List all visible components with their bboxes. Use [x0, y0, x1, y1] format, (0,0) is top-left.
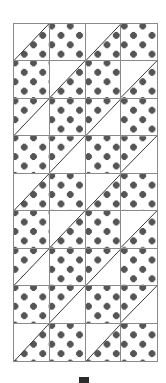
quilt-cell-full	[121, 324, 157, 361]
quilt-cell-half-lr	[121, 211, 157, 248]
quilt-cell-full	[86, 211, 122, 248]
polka-dot-fabric	[86, 286, 121, 322]
polka-dot-fabric	[121, 211, 157, 247]
quilt-cell-full	[14, 286, 50, 323]
quilt-cell-full	[86, 136, 122, 173]
polka-dot-fabric	[50, 61, 85, 97]
quilt-cell-half-lr	[14, 324, 50, 361]
polka-dot-fabric	[86, 99, 121, 135]
quilt-cell-half-ul	[50, 286, 86, 323]
polka-dot-fabric	[86, 61, 121, 97]
quilt-cell-full	[86, 286, 122, 323]
quilt-cell-full	[14, 211, 50, 248]
quilt-cell-full	[50, 24, 86, 61]
polka-dot-fabric	[86, 136, 121, 172]
polka-dot-fabric	[50, 136, 85, 172]
quilt-cell-full	[121, 99, 157, 136]
polka-dot-fabric	[50, 174, 85, 210]
polka-dot-fabric	[86, 174, 121, 210]
quilt-cell-full	[14, 61, 50, 98]
polka-dot-fabric	[50, 99, 85, 135]
quilt-cell-half-lr	[14, 174, 50, 211]
polka-dot-fabric	[86, 24, 121, 60]
quilt-cell-half-lr	[50, 61, 86, 98]
polka-dot-fabric	[50, 211, 85, 247]
polka-dot-fabric	[50, 249, 85, 285]
polka-dot-fabric	[14, 99, 49, 135]
polka-dot-fabric	[14, 61, 49, 97]
polka-dot-fabric	[14, 24, 49, 60]
polka-dot-fabric	[121, 61, 157, 97]
quilt-cell-full	[50, 99, 86, 136]
polka-dot-fabric	[121, 249, 157, 285]
quilt-cell-full	[121, 249, 157, 286]
polka-dot-fabric	[50, 324, 85, 361]
quilt-cell-half-ul	[121, 136, 157, 173]
polka-dot-fabric	[86, 211, 121, 247]
polka-dot-fabric	[121, 286, 157, 322]
quilt-cell-full	[14, 136, 50, 173]
polka-dot-fabric	[14, 249, 49, 285]
dash-mark-icon	[79, 377, 89, 383]
quilt-cell-full	[121, 174, 157, 211]
quilt-cell-half-lr	[14, 24, 50, 61]
quilt-cell-full	[86, 61, 122, 98]
polka-dot-fabric	[14, 136, 49, 172]
quilt-cell-half-lr	[121, 61, 157, 98]
quilt-cell-full	[50, 324, 86, 361]
polka-dot-fabric	[14, 286, 49, 322]
quilt-cell-full	[50, 174, 86, 211]
polka-dot-fabric	[121, 24, 157, 60]
figure-stage	[0, 0, 166, 383]
polka-dot-fabric	[86, 249, 121, 285]
bottom-mark-label	[0, 370, 1, 371]
polka-dot-fabric	[121, 99, 157, 135]
quilt-cell-half-ul	[14, 249, 50, 286]
polka-dot-fabric	[14, 324, 49, 361]
quilt-cell-half-ul	[121, 286, 157, 323]
quilt-cell-half-lr	[86, 24, 122, 61]
quilt-cell-half-lr	[86, 174, 122, 211]
quilt-cell-half-lr	[50, 211, 86, 248]
polka-dot-fabric	[14, 211, 49, 247]
polka-dot-fabric	[86, 324, 121, 361]
polka-dot-fabric	[14, 174, 49, 210]
quilt-cell-full	[50, 249, 86, 286]
quilt-grid	[13, 23, 158, 362]
quilt-cell-full	[121, 24, 157, 61]
quilt-cell-half-lr	[86, 324, 122, 361]
quilt-cell-half-ul	[14, 99, 50, 136]
quilt-cell-half-ul	[50, 136, 86, 173]
polka-dot-fabric	[121, 324, 157, 361]
polka-dot-fabric	[121, 136, 157, 172]
quilt-cell-half-ul	[86, 99, 122, 136]
polka-dot-fabric	[121, 174, 157, 210]
polka-dot-fabric	[50, 286, 85, 322]
polka-dot-fabric	[50, 24, 85, 60]
quilt-cell-half-ul	[86, 249, 122, 286]
